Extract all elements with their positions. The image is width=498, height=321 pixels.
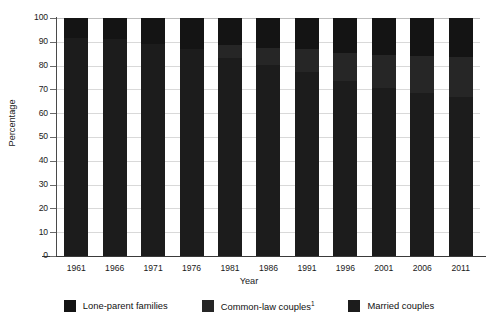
stacked-bar[interactable] (103, 18, 127, 256)
stacked-bar[interactable] (333, 18, 357, 256)
bar-segment (256, 65, 280, 256)
bar-segment (410, 56, 434, 93)
y-tick-label: 0 (4, 251, 48, 260)
x-axis-line (42, 256, 486, 257)
chart-legend: Lone-parent familiesCommon-law couples1M… (0, 296, 498, 316)
y-tick-30 (50, 185, 56, 186)
bar-segment (372, 55, 396, 88)
bar-segment (141, 44, 165, 256)
bar-segment (449, 57, 473, 97)
y-tick-20 (50, 208, 56, 209)
x-axis-title: Year (0, 276, 498, 286)
chart-container: 1009080706050403020100 Percentage 196119… (0, 0, 498, 321)
bar-segment (295, 72, 319, 256)
bar-slot (403, 18, 441, 256)
bar-segment (218, 18, 242, 45)
bar-segment (295, 49, 319, 73)
bar-segment (256, 18, 280, 48)
y-tick-70 (50, 89, 56, 90)
bar-slot (326, 18, 364, 256)
bar-segment (372, 88, 396, 256)
legend-label: Married couples (367, 300, 434, 312)
y-tick-label: 90 (4, 37, 48, 46)
y-tick-100 (50, 18, 56, 19)
bar-segment (333, 18, 357, 53)
stacked-bar[interactable] (410, 18, 434, 256)
bar-segment (64, 18, 88, 38)
y-tick-50 (50, 137, 56, 138)
stacked-bar[interactable] (180, 18, 204, 256)
bar-segment (180, 49, 204, 256)
stacked-bar[interactable] (372, 18, 396, 256)
legend-item[interactable]: Lone-parent families (64, 300, 168, 312)
bar-slot (95, 18, 133, 256)
legend-item[interactable]: Married couples (348, 300, 434, 312)
y-tick-10 (50, 232, 56, 233)
bar-segment (333, 81, 357, 256)
bar-segment (64, 38, 88, 256)
bar-slot (57, 18, 95, 256)
legend-swatch-icon (348, 300, 360, 312)
y-axis-title: Percentage (7, 63, 17, 183)
legend-label: Lone-parent families (83, 300, 168, 312)
legend-swatch-icon (64, 300, 76, 312)
y-tick-80 (50, 66, 56, 67)
bar-slot (442, 18, 480, 256)
bar-segment (333, 53, 357, 81)
stacked-bar[interactable] (256, 18, 280, 256)
bar-segment (103, 39, 127, 256)
y-tick-90 (50, 42, 56, 43)
bar-segment (449, 18, 473, 57)
bar-slot (211, 18, 249, 256)
bar-segment (103, 18, 127, 39)
bar-segment (180, 18, 204, 49)
bar-slot (172, 18, 210, 256)
y-tick-label: 20 (4, 204, 48, 213)
bar-segment (141, 18, 165, 44)
stacked-bar[interactable] (64, 18, 88, 256)
y-tick-40 (50, 161, 56, 162)
bar-segment (218, 45, 242, 58)
stacked-bar[interactable] (141, 18, 165, 256)
stacked-bar[interactable] (218, 18, 242, 256)
bar-slot (288, 18, 326, 256)
bar-segment (295, 18, 319, 49)
bars-group (57, 18, 480, 256)
legend-footnote-marker: 1 (311, 300, 315, 307)
bar-segment (449, 97, 473, 256)
stacked-bar[interactable] (295, 18, 319, 256)
bar-slot (134, 18, 172, 256)
y-tick-label: 10 (4, 228, 48, 237)
stacked-bar[interactable] (449, 18, 473, 256)
bar-segment (410, 18, 434, 56)
bar-segment (218, 58, 242, 256)
legend-item[interactable]: Common-law couples1 (202, 298, 315, 313)
y-tick-60 (50, 113, 56, 114)
bar-segment (256, 48, 280, 65)
y-tick-label: 100 (4, 13, 48, 22)
y-tick-0 (50, 256, 56, 257)
bar-segment (410, 93, 434, 256)
bar-segment (372, 18, 396, 55)
legend-swatch-icon (202, 300, 214, 312)
bar-slot (249, 18, 287, 256)
bar-slot (365, 18, 403, 256)
legend-label: Common-law couples1 (221, 298, 315, 313)
